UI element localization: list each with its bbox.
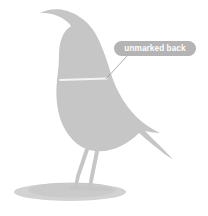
bird-annotation-figure: unmarked back: [0, 0, 208, 216]
callout-label: unmarked back: [124, 44, 186, 53]
callout-leader-line: [106, 56, 127, 79]
front-leg: [88, 146, 100, 189]
figure-canvas: unmarked back: [0, 0, 208, 216]
bird-body-silhouette: [40, 9, 173, 159]
back-leg: [74, 146, 90, 188]
